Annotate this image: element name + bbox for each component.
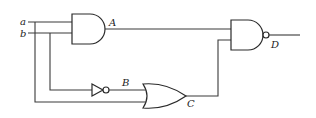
nand-gate-d [231,20,263,50]
input-label-b: b [20,28,26,39]
gate-label-c: C [187,98,195,109]
gate-label-a: A [108,17,116,28]
logic-circuit-diagram: a b A B C D [0,0,316,118]
input-label-a: a [20,16,26,27]
or-gate-c [143,84,186,109]
not-gate-b [92,84,103,96]
not-bubble [103,87,109,93]
wire-c-output [186,40,231,96]
and-gate-a [72,14,105,44]
gate-label-b: B [121,77,129,88]
nand-bubble [263,32,269,38]
gate-label-d: D [270,39,279,50]
